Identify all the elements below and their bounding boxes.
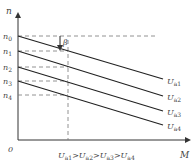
svg-text:0: 0 — [8, 145, 13, 154]
n2-label: n2 — [3, 63, 12, 73]
n3-label: n3 — [3, 77, 12, 87]
voltage-relation: Ua1>Ua2>Ua3>Ua4 — [58, 151, 135, 161]
svg-text:M: M — [179, 150, 190, 160]
n1-label: n1 — [3, 47, 12, 57]
ua3-label: Ua3 — [167, 108, 181, 118]
line-ua4 — [18, 81, 163, 125]
ua1-label: Ua1 — [167, 77, 181, 87]
characteristic-diagram: n M 0 β n0 n1 n2 n3 n4 Ua1 Ua2 Ua3 Ua4 U… — [0, 0, 195, 167]
svg-text:n: n — [6, 6, 12, 16]
ua2-label: Ua2 — [167, 93, 181, 103]
n4-label: n4 — [3, 91, 12, 101]
n0-label: n0 — [3, 32, 12, 42]
svg-text:β: β — [62, 38, 68, 47]
ua4-label: Ua4 — [167, 122, 181, 132]
